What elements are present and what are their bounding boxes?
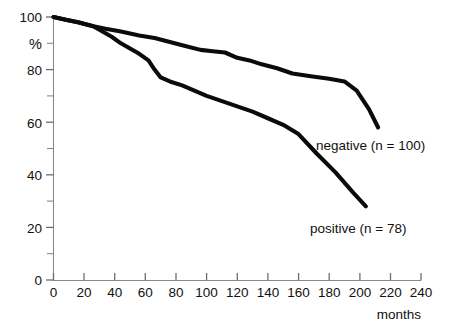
x-tick-label-140: 140 (257, 285, 280, 300)
x-axis: 0 20 40 60 80 100 120 140 160 180 200 22… (50, 273, 433, 322)
series-annotation-negative: negative (n = 100) (316, 138, 425, 153)
x-tick-label-40: 40 (107, 285, 122, 300)
x-tick-label-20: 20 (76, 285, 91, 300)
y-axis-title: % (29, 36, 42, 52)
x-tick-label-220: 220 (379, 285, 402, 300)
x-tick-label-80: 80 (168, 285, 183, 300)
x-tick-label-60: 60 (138, 285, 153, 300)
series-annotation-positive: positive (n = 78) (310, 221, 406, 236)
survival-curve-figure: 100 % 80 60 40 20 0 0 20 40 (0, 0, 451, 333)
y-tick-label-0: 0 (34, 273, 42, 288)
y-tick-label-80: 80 (27, 63, 42, 78)
y-tick-label-40: 40 (27, 168, 42, 183)
x-tick-label-120: 120 (226, 285, 249, 300)
x-tick-label-100: 100 (195, 285, 218, 300)
series-line-positive (54, 17, 366, 206)
chart-canvas: 100 % 80 60 40 20 0 0 20 40 (0, 0, 451, 333)
y-axis: 100 % 80 60 40 20 0 (19, 10, 53, 288)
x-tick-label-160: 160 (287, 285, 310, 300)
x-axis-title: months (377, 307, 422, 322)
x-tick-label-0: 0 (50, 285, 58, 300)
series-group (54, 17, 379, 206)
y-tick-label-20: 20 (27, 221, 42, 236)
x-tick-label-180: 180 (318, 285, 341, 300)
y-tick-label-60: 60 (27, 116, 42, 131)
x-tick-label-200: 200 (349, 285, 372, 300)
x-tick-label-240: 240 (410, 285, 433, 300)
y-tick-label-100: 100 (19, 10, 42, 25)
